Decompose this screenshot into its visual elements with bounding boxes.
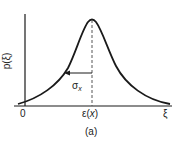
- mean-label: ε(x): [82, 109, 98, 119]
- mean-label-suffix: ): [95, 108, 98, 119]
- sigma-label: σx: [72, 81, 82, 92]
- x-axis-label: ξ: [163, 109, 167, 119]
- origin-label: 0: [20, 109, 26, 119]
- density-curve: [18, 20, 170, 105]
- panel-label: (a): [85, 127, 97, 137]
- sigma-subscript: x: [78, 85, 82, 92]
- mean-label-prefix: ε(: [82, 108, 90, 119]
- y-axis-label: p(ξ): [2, 53, 12, 70]
